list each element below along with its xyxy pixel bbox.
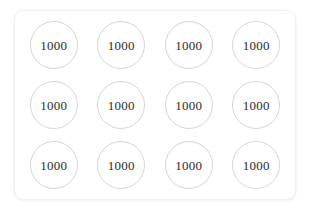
circle-value-label: 1000 [243,159,270,172]
grid-cell[interactable]: 1000 [165,81,213,129]
value-circle[interactable]: 1000 [232,21,280,69]
grid-cell[interactable]: 1000 [30,21,78,69]
value-circle[interactable]: 1000 [30,141,78,189]
value-circle[interactable]: 1000 [232,81,280,129]
grid-cell[interactable]: 1000 [97,81,145,129]
circle-value-label: 1000 [243,39,270,52]
value-circle[interactable]: 1000 [97,81,145,129]
circle-value-label: 1000 [175,99,202,112]
grid-cell[interactable]: 1000 [165,141,213,189]
value-circle[interactable]: 1000 [30,81,78,129]
grid-cell[interactable]: 1000 [232,81,280,129]
circle-value-label: 1000 [175,39,202,52]
grid-cell[interactable]: 1000 [97,141,145,189]
screen-root: 1000 1000 1000 1000 1000 [0,0,309,213]
grid-cell[interactable]: 1000 [30,81,78,129]
circle-grid-card: 1000 1000 1000 1000 1000 [14,10,296,200]
grid-cell[interactable]: 1000 [97,21,145,69]
grid-cell[interactable]: 1000 [30,141,78,189]
circle-value-label: 1000 [40,39,67,52]
circle-value-label: 1000 [40,99,67,112]
circle-value-label: 1000 [40,159,67,172]
value-circle[interactable]: 1000 [165,141,213,189]
value-circle[interactable]: 1000 [165,81,213,129]
value-circle[interactable]: 1000 [232,141,280,189]
circle-value-label: 1000 [108,159,135,172]
grid-cell[interactable]: 1000 [165,21,213,69]
value-circle[interactable]: 1000 [165,21,213,69]
value-circle[interactable]: 1000 [97,21,145,69]
circle-grid: 1000 1000 1000 1000 1000 [15,11,295,199]
circle-value-label: 1000 [243,99,270,112]
circle-value-label: 1000 [108,39,135,52]
grid-cell[interactable]: 1000 [232,141,280,189]
value-circle[interactable]: 1000 [97,141,145,189]
value-circle[interactable]: 1000 [30,21,78,69]
circle-value-label: 1000 [108,99,135,112]
grid-cell[interactable]: 1000 [232,21,280,69]
circle-value-label: 1000 [175,159,202,172]
